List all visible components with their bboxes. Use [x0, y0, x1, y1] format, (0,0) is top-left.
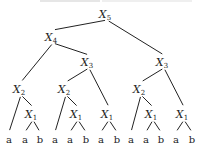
tree-leaf-b: b — [83, 134, 89, 145]
tree-node-x3: X3 — [155, 56, 168, 70]
tree-leaf-a: a — [98, 134, 104, 145]
tree-edge — [68, 69, 88, 81]
tree-edge — [143, 69, 163, 81]
tree-edge — [165, 70, 183, 105]
tree-leaf-a: a — [22, 134, 28, 145]
tree-edge — [71, 122, 77, 131]
tree-edge — [34, 122, 39, 131]
tree-leaf-b: b — [189, 134, 195, 145]
tree-canvas: X5X4X3X3X2X2X2X1X1X1X1X1aabaababaabab — [0, 0, 198, 147]
tree-edge — [56, 97, 66, 130]
tree-node-x5: X5 — [98, 8, 111, 22]
tree-node-x3: X3 — [80, 56, 93, 70]
tree-node-x4: X4 — [44, 31, 58, 45]
tree-leaf-a: a — [128, 134, 134, 145]
tree-edge — [154, 122, 160, 131]
tree-edge — [90, 70, 108, 105]
tree-edge — [22, 96, 31, 105]
tree-node-x1: X1 — [175, 108, 188, 122]
tree-edge — [132, 97, 141, 130]
tree-edge — [22, 45, 51, 81]
tree-edge — [185, 122, 191, 131]
tree-edge — [55, 20, 105, 29]
tree-leaf-a: a — [173, 134, 179, 145]
tree-edge — [67, 96, 76, 105]
tree-edge — [142, 96, 151, 105]
tree-diagram: X5X4X3X3X2X2X2X1X1X1X1X1aabaababaabab — [0, 0, 198, 147]
tree-edge — [109, 21, 163, 54]
tree-node-x2: X2 — [132, 83, 145, 97]
tree-node-x1: X1 — [69, 108, 82, 122]
tree-edge — [147, 122, 152, 131]
tree-leaf-a: a — [6, 134, 12, 145]
tree-edge — [102, 122, 108, 131]
tree-node-x2: X2 — [57, 83, 70, 97]
tree-edge — [110, 122, 116, 131]
tree-edge — [79, 122, 85, 131]
tree-leaf-b: b — [37, 134, 43, 145]
tree-edge — [55, 44, 87, 55]
tree-leaf-b: b — [114, 134, 120, 145]
tree-leaf-a: a — [143, 134, 149, 145]
tree-node-x2: X2 — [12, 83, 25, 97]
tree-node-x1: X1 — [100, 108, 113, 122]
tree-node-x1: X1 — [24, 108, 37, 122]
tree-edge — [10, 97, 21, 130]
tree-leaf-a: a — [52, 134, 58, 145]
tree-edge — [177, 122, 183, 131]
tree-edge — [26, 122, 32, 131]
tree-leaf-b: b — [158, 134, 164, 145]
tree-node-x1: X1 — [144, 108, 157, 122]
tree-leaf-a: a — [67, 134, 73, 145]
